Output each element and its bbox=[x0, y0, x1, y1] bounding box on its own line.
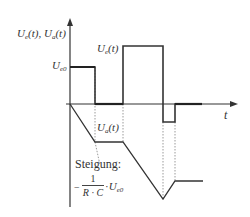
slope-factor: ·Ue0 bbox=[105, 180, 123, 194]
ue0-level-label: Ue0 bbox=[52, 59, 67, 73]
y-axis-label: Ue(t), Ua(t) bbox=[17, 27, 66, 41]
y-axis-arrow-icon bbox=[67, 18, 73, 26]
x-axis-arrow-icon bbox=[230, 101, 238, 107]
ue-signal-curve bbox=[70, 46, 202, 122]
ua-curve-label: Ua(t) bbox=[97, 121, 119, 135]
x-axis bbox=[66, 101, 238, 107]
slope-minus-sign: − bbox=[74, 182, 80, 193]
slope-annotation-title: Steigung: bbox=[75, 157, 121, 172]
slope-denominator: R · C bbox=[82, 187, 104, 198]
ue-curve-label: Ue(t) bbox=[97, 42, 118, 56]
y-axis bbox=[67, 18, 73, 207]
slope-fraction: 1 R · C bbox=[82, 173, 104, 198]
fraction-bar bbox=[82, 185, 104, 186]
x-axis-label: t bbox=[224, 108, 227, 123]
slope-numerator: 1 bbox=[82, 173, 104, 184]
